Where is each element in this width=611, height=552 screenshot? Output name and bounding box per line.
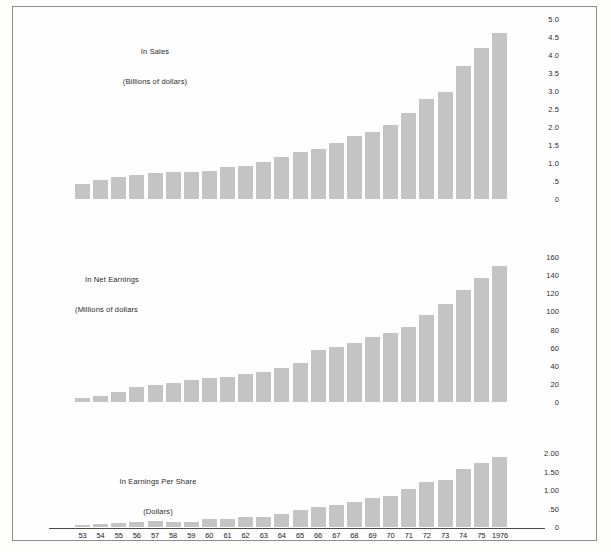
ytick-earnings-per-share-3: 1.50 xyxy=(519,467,559,476)
bar-sales-60 xyxy=(202,171,217,199)
x-label-56: 56 xyxy=(129,531,144,540)
bar-sales-70 xyxy=(383,125,398,199)
ytick-sales-7: 3.5 xyxy=(519,69,559,78)
panel-net-earnings-plot xyxy=(75,257,507,402)
bar-sales-54 xyxy=(93,180,108,199)
x-label-58: 58 xyxy=(166,531,181,540)
x-label-67: 67 xyxy=(329,531,344,540)
ytick-net-earnings-2: 40 xyxy=(519,361,559,370)
bar-net-earnings-75 xyxy=(474,278,489,402)
bar-sales-59 xyxy=(184,172,199,199)
bar-earnings-per-share-68 xyxy=(347,502,362,527)
bar-net-earnings-56 xyxy=(129,387,144,402)
ytick-net-earnings-7: 140 xyxy=(519,271,559,280)
bar-net-earnings-74 xyxy=(456,290,471,402)
x-label-66: 66 xyxy=(311,531,326,540)
ytick-earnings-per-share-2: 1.00 xyxy=(519,486,559,495)
bar-sales-56 xyxy=(129,175,144,199)
bar-sales-62 xyxy=(238,166,253,199)
bar-net-earnings-65 xyxy=(293,363,308,402)
bar-earnings-per-share-62 xyxy=(238,517,253,527)
bar-net-earnings-62 xyxy=(238,374,253,402)
bar-earnings-per-share-61 xyxy=(220,519,235,527)
bar-earnings-per-share-72 xyxy=(419,482,434,527)
ytick-sales-4: 2.0 xyxy=(519,123,559,132)
x-axis-labels: 5354555657585960616263646566676869707172… xyxy=(75,531,507,540)
x-label-62: 62 xyxy=(238,531,253,540)
x-label-64: 64 xyxy=(274,531,289,540)
chart-frame: In Sales (Billions of dollars) 0.51.01.5… xyxy=(12,6,597,541)
bar-earnings-per-share-73 xyxy=(438,480,453,527)
ytick-sales-8: 4.0 xyxy=(519,51,559,60)
panel-net-earnings-yaxis: 020406080100120140160 xyxy=(519,257,559,402)
ytick-sales-9: 4.5 xyxy=(519,33,559,42)
x-label-57: 57 xyxy=(148,531,163,540)
bar-sales-67 xyxy=(329,143,344,199)
bar-sales-68 xyxy=(347,136,362,199)
x-label-71: 71 xyxy=(401,531,416,540)
bar-earnings-per-share-71 xyxy=(401,489,416,527)
bar-earnings-per-share-1976 xyxy=(492,457,507,527)
x-label-63: 63 xyxy=(256,531,271,540)
panel-sales-bars xyxy=(75,19,507,199)
bar-sales-61 xyxy=(220,167,235,199)
bar-earnings-per-share-57 xyxy=(148,521,163,527)
x-label-74: 74 xyxy=(456,531,471,540)
ytick-earnings-per-share-1: .50 xyxy=(519,504,559,513)
x-label-65: 65 xyxy=(293,531,308,540)
x-label-61: 61 xyxy=(220,531,235,540)
ytick-sales-5: 2.5 xyxy=(519,105,559,114)
panel-eps-plot xyxy=(75,453,507,527)
panel-net-earnings: In Net Earnings (Millions of dollars 020… xyxy=(13,239,596,409)
panel-eps-yaxis: 0.501.001.502.00 xyxy=(519,453,559,527)
x-axis-line xyxy=(49,528,545,529)
bar-sales-74 xyxy=(456,66,471,199)
bar-earnings-per-share-64 xyxy=(274,514,289,527)
ytick-net-earnings-6: 120 xyxy=(519,289,559,298)
bar-earnings-per-share-65 xyxy=(293,510,308,527)
bar-earnings-per-share-66 xyxy=(311,507,326,527)
bar-net-earnings-72 xyxy=(419,315,434,402)
x-label-55: 55 xyxy=(111,531,126,540)
bar-net-earnings-71 xyxy=(401,327,416,402)
bar-net-earnings-67 xyxy=(329,347,344,402)
bar-sales-58 xyxy=(166,172,181,199)
bar-net-earnings-1976 xyxy=(492,266,507,402)
bar-earnings-per-share-58 xyxy=(166,522,181,527)
x-label-68: 68 xyxy=(347,531,362,540)
bar-sales-63 xyxy=(256,162,271,199)
ytick-net-earnings-4: 80 xyxy=(519,325,559,334)
bar-earnings-per-share-60 xyxy=(202,519,217,527)
bar-sales-69 xyxy=(365,132,380,199)
bar-net-earnings-66 xyxy=(311,350,326,402)
bar-net-earnings-73 xyxy=(438,304,453,402)
x-label-60: 60 xyxy=(202,531,217,540)
bar-net-earnings-59 xyxy=(184,380,199,402)
ytick-sales-6: 3.0 xyxy=(519,87,559,96)
bar-earnings-per-share-56 xyxy=(129,522,144,527)
panel-sales-plot xyxy=(75,19,507,199)
bar-earnings-per-share-69 xyxy=(365,498,380,527)
bar-earnings-per-share-53 xyxy=(75,525,90,527)
bar-net-earnings-68 xyxy=(347,343,362,402)
bar-sales-66 xyxy=(311,149,326,199)
ytick-sales-10: 5.0 xyxy=(519,15,559,24)
x-label-69: 69 xyxy=(365,531,380,540)
bar-net-earnings-64 xyxy=(274,368,289,402)
bar-earnings-per-share-59 xyxy=(184,522,199,527)
bar-sales-72 xyxy=(419,99,434,199)
bar-sales-57 xyxy=(148,173,163,199)
x-label-59: 59 xyxy=(184,531,199,540)
bar-earnings-per-share-63 xyxy=(256,517,271,527)
bar-sales-1976 xyxy=(492,33,507,199)
ytick-sales-1: .5 xyxy=(519,177,559,186)
ytick-sales-3: 1.5 xyxy=(519,141,559,150)
chart-page: In Sales (Billions of dollars) 0.51.01.5… xyxy=(0,0,611,552)
ytick-earnings-per-share-4: 2.00 xyxy=(519,449,559,458)
panel-eps-bars xyxy=(75,453,507,527)
bar-net-earnings-55 xyxy=(111,392,126,402)
bar-sales-53 xyxy=(75,184,90,199)
ytick-earnings-per-share-0: 0 xyxy=(519,523,559,532)
bar-sales-75 xyxy=(474,48,489,199)
bar-sales-65 xyxy=(293,152,308,199)
